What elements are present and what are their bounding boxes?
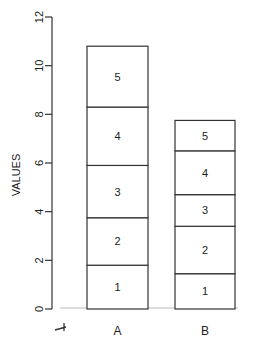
- y-tick-label: 10: [33, 60, 45, 72]
- segment-label: 5: [202, 130, 208, 142]
- x-category-label: B: [201, 324, 209, 338]
- y-tick-label: 4: [33, 209, 45, 215]
- stacked-bar-chart: 024681012VALUES12345A12345B: [0, 0, 266, 349]
- y-tick-label: 2: [33, 257, 45, 263]
- segment-label: 3: [114, 186, 120, 198]
- segment-label: 2: [114, 235, 120, 247]
- segment-label: 3: [202, 204, 208, 216]
- segment-label: 5: [114, 71, 120, 83]
- y-tick-label: 0: [33, 306, 45, 312]
- y-axis-label: VALUES: [10, 154, 22, 197]
- arrow-mark-icon: [55, 323, 66, 331]
- segment-label: 4: [202, 167, 208, 179]
- segment-label: 4: [114, 130, 120, 142]
- segment-label: 1: [114, 281, 120, 293]
- x-category-label: A: [113, 324, 121, 338]
- y-tick-label: 12: [33, 11, 45, 23]
- y-tick-label: 8: [33, 111, 45, 117]
- y-tick-label: 6: [33, 160, 45, 166]
- segment-label: 1: [202, 285, 208, 297]
- segment-label: 2: [202, 244, 208, 256]
